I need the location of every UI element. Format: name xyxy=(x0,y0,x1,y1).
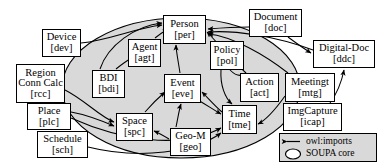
node-event[interactable]: Event [eve] xyxy=(164,74,201,103)
node-meetingt-code: [mtg] xyxy=(298,88,321,99)
node-agent[interactable]: Agent [agt] xyxy=(128,39,161,67)
node-time-title: Time xyxy=(229,109,251,120)
node-device[interactable]: Device [dev] xyxy=(42,29,81,57)
legend-box: owl:imports SOUPA core xyxy=(279,133,377,162)
node-document-code: [doc] xyxy=(264,23,286,34)
node-space[interactable]: Space [spc] xyxy=(116,113,153,141)
node-place-title: Place xyxy=(38,106,61,117)
node-geo-m[interactable]: Geo-M [geo] xyxy=(170,128,211,156)
node-meetingt[interactable]: Meetingt [mtg] xyxy=(285,73,335,102)
node-policy-code: [pol] xyxy=(217,56,237,67)
node-region-conn-calc[interactable]: Region Conn Calc [rcc] xyxy=(16,64,65,103)
node-event-code: [eve] xyxy=(172,89,194,100)
node-digital-doc-code: [ddc] xyxy=(333,54,355,65)
node-policy[interactable]: Policy [pol] xyxy=(210,41,244,70)
legend-row-core: SOUPA core xyxy=(303,148,354,158)
node-bdi-code: [bdi] xyxy=(98,84,118,95)
node-document[interactable]: Document [doc] xyxy=(249,9,302,37)
legend-label-imports: owl:imports xyxy=(306,136,352,146)
node-place[interactable]: Place [plc] xyxy=(27,103,71,130)
node-space-code: [spc] xyxy=(124,127,145,138)
node-device-code: [dev] xyxy=(50,43,72,54)
node-schedule-code: [sch] xyxy=(52,145,73,156)
node-person-title: Person xyxy=(170,19,199,30)
legend-label-core: SOUPA core xyxy=(306,148,354,158)
node-schedule-title: Schedule xyxy=(43,134,82,145)
node-policy-title: Policy xyxy=(214,45,241,56)
node-imgcapture[interactable]: ImgCapture [icap] xyxy=(283,103,342,131)
node-digital-doc[interactable]: Digital-Doc [ddc] xyxy=(313,40,375,68)
soupa-ontology-diagram: Device [dev] Region Conn Calc [rcc] Plac… xyxy=(0,0,382,167)
node-time-code: [tme] xyxy=(228,120,251,131)
node-imgcapture-code: [icap] xyxy=(300,117,324,128)
ellipse-icon xyxy=(286,149,301,159)
node-person-code: [per] xyxy=(174,30,194,41)
node-bdi[interactable]: BDI [bdi] xyxy=(92,70,125,98)
node-event-title: Event xyxy=(170,78,195,89)
node-time[interactable]: Time [tme] xyxy=(222,105,257,134)
node-meetingt-title: Meetingt xyxy=(291,77,329,88)
node-geo-m-code: [geo] xyxy=(179,142,201,153)
node-person[interactable]: Person [per] xyxy=(163,15,206,44)
node-action-title: Action xyxy=(245,77,274,88)
node-schedule[interactable]: Schedule [sch] xyxy=(37,131,88,158)
legend-row-imports: owl:imports xyxy=(303,136,352,146)
node-place-code: [plc] xyxy=(39,117,59,128)
node-agent-code: [agt] xyxy=(135,53,155,64)
node-action-code: [act] xyxy=(250,88,269,99)
node-region-conn-calc-code: [rcc] xyxy=(31,89,51,100)
node-action[interactable]: Action [act] xyxy=(240,73,279,102)
